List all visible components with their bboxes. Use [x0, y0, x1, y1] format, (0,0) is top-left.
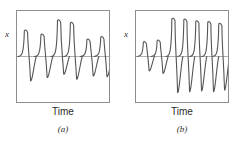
figure-container: x Time (a) x Time (b): [0, 0, 239, 146]
y-axis-label-a: x: [5, 30, 9, 39]
trace-group-a: [18, 20, 109, 81]
panel-b: x Time (b): [119, 0, 238, 146]
trace-group-b: [137, 18, 228, 92]
panel-a: x Time (a): [0, 0, 119, 146]
spike-trace: [34, 34, 53, 77]
spike-train-plot-a: [17, 11, 109, 102]
plot-frame-a: [16, 10, 110, 103]
spike-train-plot-b: [136, 11, 228, 102]
spike-trace: [80, 39, 99, 76]
spike-trace: [18, 30, 37, 81]
x-axis-label-a: Time: [16, 106, 110, 117]
plot-frame-b: [135, 10, 229, 103]
x-axis-label-b: Time: [135, 106, 229, 117]
panel-caption-a: (a): [16, 124, 110, 134]
y-axis-label-b: x: [124, 30, 128, 39]
panel-caption-b: (b): [135, 124, 229, 134]
spike-trace: [64, 22, 83, 79]
spike-trace: [51, 20, 70, 74]
